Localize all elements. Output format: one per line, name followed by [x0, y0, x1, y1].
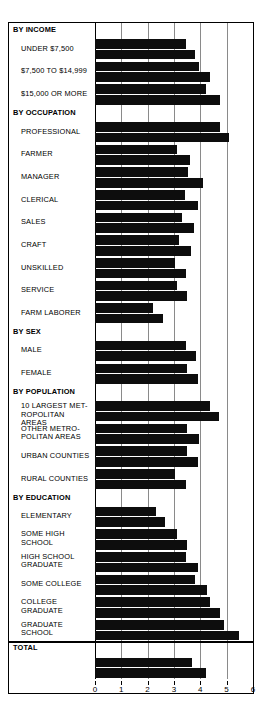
- bar-upper: [95, 507, 156, 517]
- bar-lower: [95, 314, 163, 324]
- section-divider: [9, 641, 253, 642]
- section-header-row: BY OCCUPATION: [9, 106, 253, 121]
- data-row: $15,000 OR MORE: [9, 83, 253, 106]
- data-row: SOME COLLEGE: [9, 573, 253, 596]
- bar-upper: [95, 529, 177, 539]
- row-label: PROFESSIONAL: [9, 128, 95, 137]
- bar-upper: [95, 303, 153, 313]
- bar-upper: [95, 281, 177, 291]
- row-label: SERVICE: [9, 286, 95, 295]
- bar-upper: [95, 62, 199, 72]
- data-row: FEMALE: [9, 362, 253, 385]
- bar-pair: [95, 121, 253, 144]
- section-header-row: BY SEX: [9, 325, 253, 340]
- bar-pair: [95, 234, 253, 257]
- x-tick-label-2: 2: [145, 685, 150, 694]
- row-label: OTHER METRO- POLITAN AREAS: [9, 425, 95, 442]
- bar-lower: [95, 351, 196, 361]
- row-label: $15,000 OR MORE: [9, 90, 95, 99]
- bar-pair: [95, 257, 253, 280]
- bar-lower: [95, 434, 199, 444]
- bar-lower: [95, 631, 239, 641]
- section-label-total: TOTAL: [9, 644, 95, 653]
- bar-lower: [95, 517, 165, 527]
- bar-lower: [95, 178, 203, 188]
- row-label: RURAL COUNTIES: [9, 475, 95, 484]
- bar-pair: [95, 423, 253, 446]
- data-row: UNSKILLED: [9, 257, 253, 280]
- gridline-6: [253, 23, 254, 679]
- data-row: 10 LARGEST MET- ROPOLITAN AREAS: [9, 400, 253, 423]
- bar-lower: [95, 668, 206, 678]
- data-row: MALE: [9, 340, 253, 363]
- bar-pair: [95, 551, 253, 574]
- bar-upper: [95, 469, 175, 479]
- bar-lower: [95, 480, 186, 490]
- bar-upper: [95, 258, 175, 268]
- row-label: COLLEGE GRADUATE: [9, 598, 95, 615]
- bar-pair: [95, 573, 253, 596]
- row-label: SOME COLLEGE: [9, 580, 95, 589]
- bar-lower: [95, 155, 190, 165]
- section-header-row: BY INCOME: [9, 23, 253, 38]
- bar-pair: [95, 400, 253, 423]
- bar-upper: [95, 341, 186, 351]
- row-label: ELEMENTARY: [9, 512, 95, 521]
- bar-pair: [95, 445, 253, 468]
- data-row: $7,500 TO $14,999: [9, 61, 253, 84]
- section-header-row: BY EDUCATION: [9, 491, 253, 506]
- bar-upper: [95, 597, 210, 607]
- bar-pair: [95, 302, 253, 325]
- section-label-by-education: BY EDUCATION: [9, 494, 95, 503]
- bar-upper: [95, 424, 187, 434]
- bar-upper: [95, 213, 182, 223]
- row-label: UNSKILLED: [9, 264, 95, 273]
- bar-upper: [95, 145, 177, 155]
- data-row: SOME HIGH SCHOOL: [9, 528, 253, 551]
- bar-upper: [95, 575, 195, 585]
- x-tick-label-1: 1: [119, 685, 124, 694]
- row-label: HIGH SCHOOL GRADUATE: [9, 553, 95, 570]
- bar-lower: [95, 201, 198, 211]
- bar-lower: [95, 563, 198, 573]
- row-label: FARMER: [9, 150, 95, 159]
- bar-pair: [95, 506, 253, 529]
- data-row: [9, 656, 253, 679]
- data-row: FARM LABORER: [9, 302, 253, 325]
- x-axis-title-wrap: MEAN SCORE: [8, 694, 254, 718]
- bar-upper: [95, 167, 188, 177]
- row-label: GRADUATE SCHOOL: [9, 621, 95, 638]
- section-label-by-occupation: BY OCCUPATION: [9, 109, 95, 118]
- data-row: CLERICAL: [9, 189, 253, 212]
- section-label-by-sex: BY SEX: [9, 328, 95, 337]
- bar-pair: [95, 619, 253, 642]
- data-row: PROFESSIONAL: [9, 121, 253, 144]
- bar-pair: [95, 362, 253, 385]
- bar-lower: [95, 133, 229, 143]
- bar-upper: [95, 620, 224, 630]
- row-label: MALE: [9, 346, 95, 355]
- bar-upper: [95, 122, 220, 132]
- x-tick-label-3: 3: [172, 685, 177, 694]
- data-row: SERVICE: [9, 279, 253, 302]
- bar-upper: [95, 39, 186, 49]
- bar-pair: [95, 468, 253, 491]
- bar-lower: [95, 72, 210, 82]
- bar-lower: [95, 95, 220, 105]
- bar-lower: [95, 540, 187, 550]
- bar-upper: [95, 84, 206, 94]
- row-label: FARM LABORER: [9, 309, 95, 318]
- bar-pair: [95, 340, 253, 363]
- bar-pair: [95, 144, 253, 167]
- bar-lower: [95, 412, 219, 422]
- bar-upper: [95, 552, 186, 562]
- chart-frame: BY INCOMEUNDER $7,500$7,500 TO $14,999$1…: [8, 22, 254, 694]
- data-row: CRAFT: [9, 234, 253, 257]
- data-row: COLLEGE GRADUATE: [9, 596, 253, 619]
- bar-lower: [95, 269, 186, 279]
- bar-pair: [95, 83, 253, 106]
- x-tick-label-6: 6: [251, 685, 256, 694]
- bar-upper: [95, 401, 210, 411]
- data-row: UNDER $7,500: [9, 38, 253, 61]
- row-label: $7,500 TO $14,999: [9, 67, 95, 76]
